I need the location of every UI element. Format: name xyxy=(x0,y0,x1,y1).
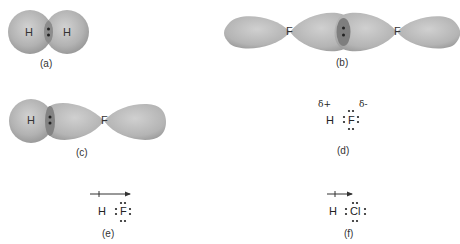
atom-f-right: F xyxy=(394,25,401,37)
electron-dot xyxy=(342,27,345,30)
electron-dot xyxy=(47,28,50,31)
panel-d-hf-lewis-partial-charges: δ+ δ- H F (d) xyxy=(300,95,420,170)
electron-dot xyxy=(47,34,50,37)
atom-f: F xyxy=(101,114,108,126)
panel-label-f: (f) xyxy=(344,228,353,239)
lone-pair-dots xyxy=(300,95,420,170)
atom-h: H xyxy=(27,114,35,126)
panel-f-hcl-dipole: H Cl (f) xyxy=(300,180,400,244)
electron-dot xyxy=(342,34,345,37)
panel-label-d: (d) xyxy=(337,145,349,156)
hf-orbital-overlap-graphic xyxy=(0,90,200,170)
atom-f-left: F xyxy=(286,25,293,37)
panel-label-b: (b) xyxy=(336,57,348,68)
panel-label-c: (c) xyxy=(76,147,88,158)
electron-dot xyxy=(49,116,52,119)
h2-orbital-overlap-graphic xyxy=(0,0,120,80)
f2-orbital-overlap-graphic xyxy=(220,0,460,90)
atom-h-right: H xyxy=(63,26,71,38)
panel-b-f2-orbitals: F F (b) xyxy=(220,0,460,90)
panel-a-h2-orbitals: H H (a) xyxy=(0,0,120,80)
panel-e-hf-dipole: H F (e) xyxy=(60,180,160,244)
electron-dot xyxy=(49,122,52,125)
atom-h-left: H xyxy=(25,26,33,38)
panel-label-e: (e) xyxy=(102,228,114,239)
panel-label-a: (a) xyxy=(40,58,52,69)
panel-c-hf-orbitals: H F (c) xyxy=(0,90,200,170)
